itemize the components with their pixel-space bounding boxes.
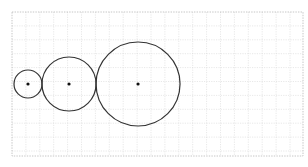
center-dot-large xyxy=(136,82,139,85)
grid-border xyxy=(12,12,303,156)
center-dot-medium xyxy=(67,82,70,85)
diagram-canvas xyxy=(0,0,308,167)
grid xyxy=(12,12,303,156)
center-dot-small xyxy=(26,82,29,85)
circles-group xyxy=(14,42,180,126)
